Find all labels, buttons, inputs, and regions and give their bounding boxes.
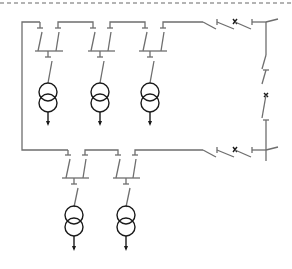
single-line-diagram <box>0 0 292 269</box>
bay-t1 <box>35 22 63 126</box>
upper-section <box>35 19 278 126</box>
lower-incoming-switchgear <box>203 147 278 157</box>
upper-incoming-switchgear <box>203 19 278 29</box>
upper-link-2-3 <box>110 22 145 26</box>
lower-link-4-5 <box>85 150 118 154</box>
transformer-icon <box>141 83 159 101</box>
upper-link-3-out <box>163 22 203 26</box>
transformer-icon <box>39 83 57 101</box>
lower-link-5-out <box>135 150 203 154</box>
lower-section <box>62 147 278 251</box>
bay-t2 <box>88 26 115 126</box>
bay-t5 <box>113 154 140 251</box>
right-tie-switchgear <box>262 22 269 161</box>
bay-t4 <box>62 150 89 251</box>
transformer-icon <box>91 83 109 101</box>
bay-t3 <box>139 26 167 126</box>
left-feeder-line <box>22 22 68 150</box>
upper-link-1-2 <box>58 22 93 26</box>
